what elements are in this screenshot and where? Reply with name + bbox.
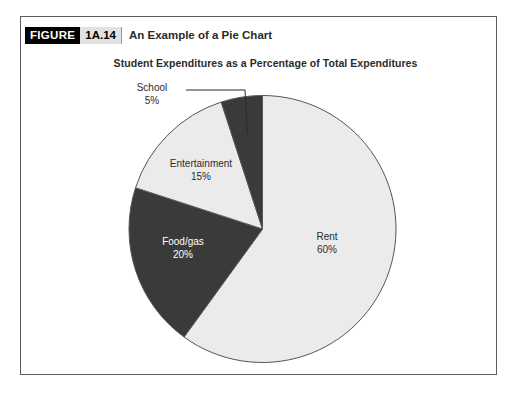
pie-slice-group <box>129 95 396 362</box>
pie-label-school-value: 5% <box>121 95 183 108</box>
pie-label-food-gas-value: 20% <box>149 249 217 262</box>
pie-label-food-gas-name: Food/gas <box>162 236 204 247</box>
pie-label-school: School 5% <box>121 82 183 107</box>
pie-chart <box>0 0 521 394</box>
pie-label-entertainment: Entertainment 15% <box>149 158 253 183</box>
pie-label-rent-name: Rent <box>316 231 337 242</box>
pie-label-rent-value: 60% <box>305 244 349 257</box>
pie-chart-svg <box>0 0 521 394</box>
pie-label-entertainment-value: 15% <box>149 171 253 184</box>
pie-label-entertainment-name: Entertainment <box>170 158 232 169</box>
pie-label-rent: Rent 60% <box>305 231 349 256</box>
pie-label-food-gas: Food/gas 20% <box>149 236 217 261</box>
pie-label-school-name: School <box>137 82 168 93</box>
